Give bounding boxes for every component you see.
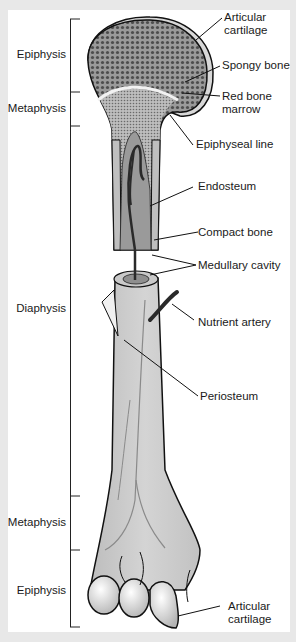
region-label-epiphysis-distal: Epiphysis <box>6 584 66 596</box>
label-red-bone-marrow: Red bone marrow <box>222 90 272 116</box>
label-articular-cartilage-proximal: Articular cartilage <box>224 11 267 37</box>
label-nutrient-artery: Nutrient artery <box>198 316 271 329</box>
region-label-metaphysis-distal: Metaphysis <box>6 516 66 528</box>
label-spongy-bone: Spongy bone <box>222 59 290 72</box>
label-epiphyseal-line: Epiphyseal line <box>196 138 273 151</box>
label-line: Articular <box>224 11 267 24</box>
proximal-bone <box>88 17 213 250</box>
region-label-epiphysis-proximal: Epiphysis <box>6 48 66 60</box>
label-line: Articular <box>228 600 271 613</box>
region-label-diaphysis: Diaphysis <box>6 302 66 314</box>
label-medullary-cavity: Medullary cavity <box>198 259 280 272</box>
label-line: Red bone <box>222 90 272 103</box>
label-endosteum: Endosteum <box>198 180 256 193</box>
label-line: marrow <box>222 103 272 116</box>
region-label-metaphysis-proximal: Metaphysis <box>6 102 66 114</box>
label-articular-cartilage-distal: Articular cartilage <box>228 600 271 626</box>
label-compact-bone: Compact bone <box>198 226 273 239</box>
label-line: cartilage <box>228 613 271 626</box>
distal-bone <box>88 250 200 628</box>
label-periosteum: Periosteum <box>200 390 258 403</box>
label-line: cartilage <box>224 24 267 37</box>
region-bracket <box>70 19 80 627</box>
